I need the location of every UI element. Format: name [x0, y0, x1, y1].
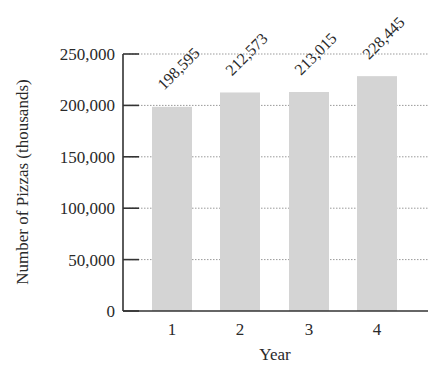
y-tick-label: 50,000: [68, 251, 115, 270]
bar: [220, 92, 260, 311]
value-label: 228,445: [359, 13, 408, 62]
bar: [357, 76, 397, 311]
bar-chart: 050,000100,000150,000200,000250,000 1234…: [0, 0, 447, 385]
x-tick-label: 4: [373, 320, 382, 339]
bars: [152, 76, 397, 311]
y-tick-label: 100,000: [60, 199, 115, 218]
y-tick-label: 0: [107, 302, 116, 321]
y-tick-label: 150,000: [60, 148, 115, 167]
bar: [289, 92, 329, 311]
x-axis-title: Year: [259, 345, 291, 364]
x-tick-label: 2: [236, 320, 245, 339]
y-axis-title: Number of Pizzas (thousands): [13, 79, 32, 284]
y-axis-ticks: 050,000100,000150,000200,000250,000: [60, 45, 139, 321]
x-tick-label: 3: [305, 320, 314, 339]
y-tick-label: 250,000: [60, 45, 115, 64]
value-label: 198,595: [154, 44, 203, 93]
bar: [152, 107, 192, 311]
x-axis-ticks: 1234: [168, 320, 382, 339]
y-tick-label: 200,000: [60, 96, 115, 115]
x-tick-label: 1: [168, 320, 177, 339]
